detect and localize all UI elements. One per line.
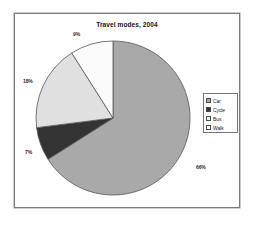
chart-legend: Car Cycle Bus Walk (203, 93, 238, 133)
legend-swatch-car-icon (206, 98, 211, 103)
legend-item-bus[interactable]: Bus (206, 114, 236, 123)
slice-label-walk: 9% (73, 31, 80, 37)
legend-swatch-cycle-icon (206, 107, 211, 112)
legend-swatch-bus-icon (206, 116, 211, 121)
legend-item-cycle[interactable]: Cycle (206, 105, 236, 114)
pie-slices-group (36, 41, 190, 195)
legend-label-walk: Walk (213, 125, 224, 131)
legend-label-car: Car (213, 98, 221, 104)
legend-label-cycle: Cycle (213, 107, 225, 113)
chart-frame: Travel modes, 2004 9% 18% 7% 66% Car Cyc… (14, 13, 240, 208)
slice-label-car: 66% (196, 164, 206, 170)
slice-label-bus: 18% (23, 78, 33, 84)
legend-item-car[interactable]: Car (206, 96, 236, 105)
legend-item-walk[interactable]: Walk (206, 123, 236, 132)
slice-label-cycle: 7% (25, 149, 32, 155)
legend-label-bus: Bus (213, 116, 221, 122)
legend-swatch-walk-icon (206, 125, 211, 130)
